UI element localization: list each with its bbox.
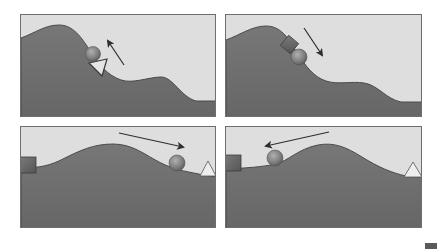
panel-bottom-right — [225, 126, 422, 228]
triangle — [404, 162, 422, 177]
panel-top-right — [225, 14, 422, 117]
ball — [86, 47, 101, 62]
motion-arrow-up-left — [108, 41, 124, 65]
terrain — [226, 144, 422, 228]
scene-bottom-left — [21, 127, 216, 228]
ball — [169, 155, 185, 171]
motion-arrow-right — [119, 133, 183, 147]
motion-arrow-down-right — [304, 28, 322, 55]
triangle — [200, 161, 216, 176]
panel-bottom-left — [20, 126, 216, 228]
panel-top-left — [20, 14, 216, 117]
ball — [291, 49, 307, 65]
scene-top-left — [21, 15, 216, 117]
terrain — [21, 144, 216, 228]
motion-arrow-left — [266, 132, 329, 146]
block — [226, 155, 241, 171]
ball — [267, 150, 283, 166]
scene-bottom-right — [226, 127, 422, 228]
block — [21, 157, 36, 173]
scene-top-right — [226, 15, 422, 117]
corner-mark — [425, 243, 437, 249]
terrain — [21, 25, 216, 117]
terrain — [226, 26, 422, 117]
